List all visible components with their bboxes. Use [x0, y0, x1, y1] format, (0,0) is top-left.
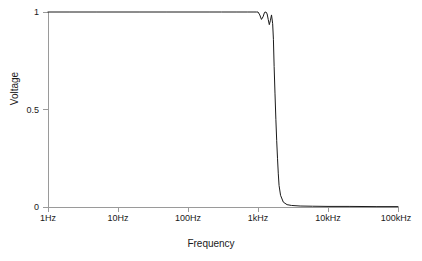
ytick-label-1: 1	[9, 7, 39, 18]
plot-area	[0, 0, 422, 261]
xtick-label-1khz: 1kHz	[248, 213, 269, 224]
x-axis-title: Frequency	[0, 238, 422, 249]
frequency-response-chart: 1Hz 10Hz 100Hz 1kHz 10kHz 100kHz 1 0.5 0…	[0, 0, 422, 261]
xtick-label-100khz: 100kHz	[381, 213, 412, 224]
ytick-label-0: 0	[9, 202, 39, 213]
response-curve	[48, 12, 398, 207]
y-axis-title: Voltage	[9, 49, 20, 129]
xtick-label-10hz: 10Hz	[107, 213, 128, 224]
xtick-label-10khz: 10kHz	[315, 213, 341, 224]
xtick-label-1hz: 1Hz	[40, 213, 56, 224]
xtick-label-100hz: 100Hz	[175, 213, 201, 224]
